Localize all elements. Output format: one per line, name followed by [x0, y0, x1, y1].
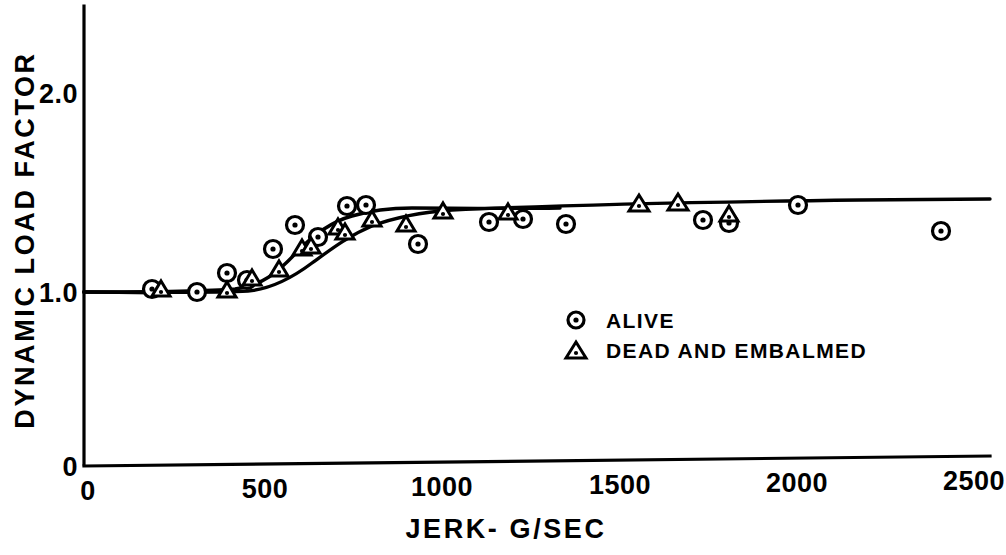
data-point [933, 223, 950, 240]
data-point [695, 212, 712, 229]
y-tick-label-0: 0 [62, 452, 78, 482]
x-tick-label-1000: 1000 [411, 472, 473, 502]
chart-figure: 2.0 1.0 0 0 500 1000 1500 2000 2500 JERK… [0, 0, 1006, 555]
y-tick-label-1: 1.0 [39, 278, 78, 308]
data-point [410, 236, 427, 253]
x-tick-label-2500: 2500 [943, 466, 1005, 496]
data-point [265, 241, 282, 258]
data-point [219, 265, 236, 282]
x-axis-line [84, 456, 990, 466]
x-tick-label-500: 500 [242, 474, 289, 504]
data-point [189, 284, 206, 301]
chart-legend: ALIVE DEAD AND EMBALMED [566, 309, 867, 362]
y-tick-labels: 2.0 1.0 0 [39, 79, 78, 482]
data-point [287, 217, 304, 234]
legend-label-alive: ALIVE [606, 309, 675, 332]
series-alive-markers [144, 197, 950, 301]
legend-item-dead-embalmed: DEAD AND EMBALMED [566, 339, 867, 362]
y-tick-label-2: 2.0 [39, 79, 78, 109]
triangle-dot-icon [566, 342, 586, 358]
x-tick-label-1500: 1500 [589, 470, 651, 500]
data-point [339, 198, 356, 215]
data-point [790, 197, 807, 214]
legend-label-dead-embalmed: DEAD AND EMBALMED [606, 339, 867, 362]
chart-svg: 2.0 1.0 0 0 500 1000 1500 2000 2500 JERK… [0, 0, 1006, 555]
axes-group [84, 6, 990, 466]
x-tick-label-0: 0 [80, 476, 96, 506]
circle-dot-icon [568, 312, 584, 328]
x-tick-labels: 0 500 1000 1500 2000 2500 [80, 466, 1005, 506]
x-tick-label-2000: 2000 [766, 468, 828, 498]
data-point [481, 214, 498, 231]
legend-item-alive: ALIVE [568, 309, 675, 332]
x-axis-title: JERK- G/SEC [405, 514, 606, 544]
data-point [720, 206, 738, 221]
data-point [558, 216, 575, 233]
y-axis-title: DYNAMIC LOAD FACTOR [10, 51, 40, 428]
